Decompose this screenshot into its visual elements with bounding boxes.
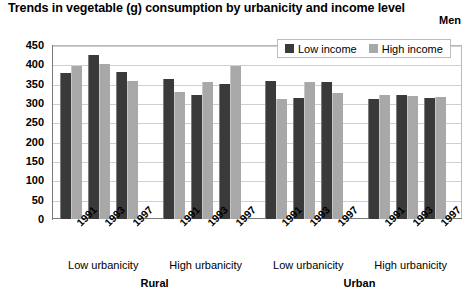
y-axis-tick-label: 350: [0, 78, 44, 89]
bar: [424, 98, 435, 219]
bar: [265, 81, 276, 219]
y-axis-tick-label: 100: [0, 175, 44, 186]
bar: [71, 66, 82, 219]
bar: [304, 82, 315, 219]
bars-layer: [52, 45, 462, 219]
square-swatch-icon: [369, 44, 378, 53]
bar: [191, 95, 202, 219]
bar: [321, 82, 332, 219]
y-axis-tick-label: 50: [0, 194, 44, 205]
bar: [368, 99, 379, 219]
y-axis-tick-label: 200: [0, 136, 44, 147]
bar: [407, 96, 418, 219]
chart-subtitle: Men: [439, 14, 461, 26]
legend: Low income High income: [277, 39, 451, 58]
bar: [116, 72, 127, 219]
urbanicity-label: Low urbanicity: [52, 259, 155, 271]
bar: [379, 95, 390, 220]
chart-title: Trends in vegetable (g) consumption by u…: [8, 1, 405, 15]
y-axis-tick-label: 0: [0, 214, 44, 225]
y-axis-tick-label: 250: [0, 117, 44, 128]
legend-item-low-income[interactable]: Low income: [285, 43, 357, 55]
region-label: Rural: [52, 277, 257, 289]
y-axis-tick-label: 400: [0, 59, 44, 70]
y-axis-tick-label: 450: [0, 40, 44, 51]
region-label: Urban: [257, 277, 462, 289]
bar: [163, 79, 174, 219]
bar: [332, 93, 343, 219]
bar: [88, 55, 99, 219]
legend-item-high-income[interactable]: High income: [369, 43, 443, 55]
bar: [396, 95, 407, 219]
legend-label: Low income: [298, 43, 357, 55]
bar: [293, 98, 304, 219]
square-swatch-icon: [285, 44, 294, 53]
bar: [99, 64, 110, 219]
bar: [60, 73, 71, 219]
y-axis-tick-label: 300: [0, 98, 44, 109]
bar: [435, 97, 446, 219]
urbanicity-label: High urbanicity: [155, 259, 258, 271]
bar: [276, 99, 287, 219]
urbanicity-label: Low urbanicity: [257, 259, 360, 271]
chart-container: Trends in vegetable (g) consumption by u…: [0, 0, 469, 297]
bar: [230, 66, 241, 219]
bar: [202, 82, 213, 219]
urbanicity-label: High urbanicity: [360, 259, 463, 271]
bar: [127, 81, 138, 219]
bar: [174, 92, 185, 219]
x-axis-year-ticks: 1991199319971991199319971991199319971991…: [52, 220, 462, 254]
y-axis-tick-label: 150: [0, 156, 44, 167]
bar: [219, 84, 230, 219]
legend-label: High income: [382, 43, 443, 55]
